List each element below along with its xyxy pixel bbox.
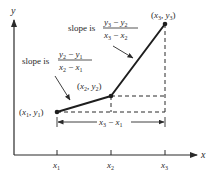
point-label-1: (x1, y1) [19, 107, 44, 118]
x-axis: x [14, 149, 206, 160]
span-label: x3 − x1 [98, 117, 123, 128]
point-1 [55, 110, 60, 115]
point-label-3: (x3, y3) [151, 10, 176, 21]
slope1-denominator: x2 − x1 [58, 62, 83, 73]
point-label-2: (x2, y2) [77, 81, 102, 92]
x-tick-labels: x1 x2 x3 [52, 160, 168, 171]
segment-1 [57, 96, 111, 112]
slope1-pointer-arrow [55, 76, 70, 100]
x-axis-label: x [200, 149, 206, 160]
slope2-numerator: y3 − y2 [103, 17, 128, 28]
tick-label-x2: x2 [106, 160, 114, 171]
slope2-denominator: x3 − x2 [103, 30, 128, 41]
slope1-numerator: y2 − y1 [58, 49, 83, 60]
slope-annotation-1: slope is y2 − y1 x2 − x1 [22, 49, 92, 100]
tick-label-x3: x3 [160, 160, 168, 171]
piecewise-linear-slope-diagram: y x x1 x2 x3 (x1, y1) (x2, y2) (x3, y3) [0, 0, 210, 178]
slope2-pointer-arrow [113, 46, 133, 58]
slope2-prefix: slope is [68, 23, 96, 33]
x-ticks [57, 150, 165, 155]
point-3 [163, 22, 168, 27]
point-2 [109, 94, 114, 99]
y-axis: y [10, 5, 16, 155]
y-axis-label: y [10, 5, 16, 16]
tick-label-x1: x1 [52, 160, 60, 171]
slope1-prefix: slope is [22, 56, 50, 66]
